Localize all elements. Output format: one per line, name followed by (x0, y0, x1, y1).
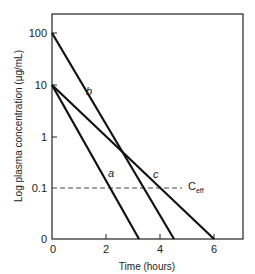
plot-frame (52, 14, 243, 239)
x-tick-label: 6 (211, 243, 217, 255)
y-tick-label: 100 (29, 27, 47, 39)
x-tick-label: 4 (157, 243, 163, 255)
series-c-label: c (153, 168, 159, 180)
series-a-label: a (108, 167, 114, 179)
series-c-line (52, 85, 214, 239)
y-tick-label: 0.1 (32, 182, 47, 194)
ceff-label: Ceff (188, 180, 204, 194)
y-tick-label: 0 (41, 233, 47, 245)
y-tick-label: 10 (35, 79, 47, 91)
series-b-line (52, 33, 174, 239)
x-axis: 0 2 4 6 Time (hours) (50, 234, 217, 272)
x-axis-label: Time (hours) (119, 261, 175, 272)
y-axis-label: Log plasma concentration (µg/mL) (13, 50, 24, 202)
x-tick-label: 2 (103, 243, 109, 255)
y-axis: 100 10 1 0.1 0 Log plasma concentration … (13, 27, 57, 245)
series-b-label: b (86, 85, 92, 97)
chart: 100 10 1 0.1 0 Log plasma concentration … (0, 0, 255, 274)
x-tick-label: 0 (50, 243, 56, 255)
y-tick-label: 1 (41, 131, 47, 143)
